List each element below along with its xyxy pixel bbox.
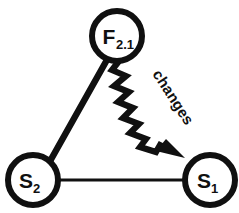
node-s-2[interactable]: S 2 — [8, 155, 58, 205]
node-s-1-label: S — [197, 169, 211, 192]
node-s-2-subscript: 2 — [33, 181, 40, 196]
node-s-2-label: S — [19, 169, 33, 192]
node-f-2-1-subscript: 2.1 — [116, 37, 134, 52]
node-s-1[interactable]: S 1 — [185, 155, 235, 205]
node-f-2-1-label: F — [103, 25, 116, 48]
node-f-2-1-circle[interactable] — [92, 11, 142, 61]
node-s-1-subscript: 1 — [211, 181, 218, 196]
diagram-canvas: changes F 2.1 S 2 S 1 — [0, 0, 239, 213]
diagram-svg: changes F 2.1 S 2 S 1 — [0, 0, 239, 213]
node-f-2-1[interactable]: F 2.1 — [92, 11, 142, 61]
